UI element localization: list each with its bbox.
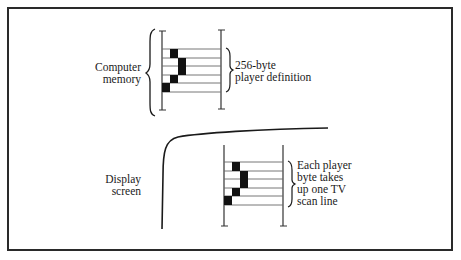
scanline-brace	[288, 161, 295, 207]
memory-label: Computer memory	[95, 61, 141, 85]
scanline-label: Each player byte takes up one TV scan li…	[297, 159, 352, 207]
screen-pixels	[224, 162, 248, 205]
definition-label-line-1: 256-byte	[235, 59, 311, 71]
definition-label-line-2: player definition	[235, 71, 311, 83]
scanline-label-line-2: byte takes	[297, 171, 352, 183]
memory-pixels	[162, 49, 186, 92]
scanline-label-line-4: scan line	[297, 195, 352, 207]
screen-label-line-2: screen	[105, 185, 141, 197]
memory-label-line-1: Computer	[95, 61, 141, 73]
memory-label-line-2: memory	[95, 73, 141, 85]
screen-label-line-1: Display	[105, 173, 141, 185]
memory-block	[146, 29, 233, 116]
player-memory-diagram	[0, 0, 461, 260]
memory-brace	[146, 29, 155, 116]
definition-brace	[226, 48, 233, 92]
definition-label: 256-byte player definition	[235, 59, 311, 83]
screen-label: Display screen	[105, 173, 141, 197]
scanline-label-line-3: up one TV	[297, 183, 352, 195]
scanline-label-line-1: Each player	[297, 159, 352, 171]
